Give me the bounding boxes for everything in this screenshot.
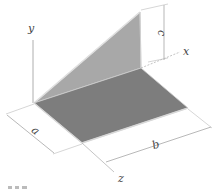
x-axis-label: x	[183, 45, 190, 58]
dimension-a-ext-back	[6, 104, 34, 114]
diagram-canvas: y x z c a b	[0, 0, 217, 189]
dimension-c-label: c	[155, 30, 168, 36]
dimension-a-ext-front	[53, 144, 82, 154]
z-axis-label: z	[117, 172, 124, 185]
caption-fragment	[8, 186, 12, 189]
dimension-a-label: a	[29, 124, 42, 138]
dimension-b-label: b	[150, 138, 161, 153]
base-plate	[34, 68, 188, 143]
caption-fragment	[22, 186, 27, 189]
caption-fragment	[15, 186, 19, 189]
x-axis	[141, 52, 180, 68]
y-axis-label: y	[27, 22, 35, 35]
dimension-b-ext-right	[188, 109, 212, 128]
z-axis	[82, 143, 114, 172]
